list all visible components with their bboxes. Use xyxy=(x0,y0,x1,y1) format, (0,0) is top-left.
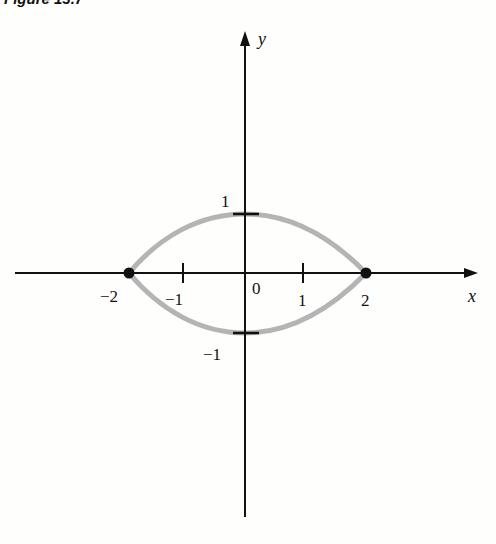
point-2-0 xyxy=(361,268,372,279)
y-tick-label-neg1: −1 xyxy=(203,345,221,364)
x-tick-label-2: 2 xyxy=(361,291,370,310)
y-axis-label: y xyxy=(256,29,266,49)
x-tick-label-neg1: −1 xyxy=(165,290,183,309)
x-axis-arrow-icon xyxy=(464,268,478,278)
y-axis-arrow-icon xyxy=(240,31,250,46)
x-tick-label-0: 0 xyxy=(252,279,261,298)
y-tick-label-1: 1 xyxy=(221,192,230,211)
point-neg2-0 xyxy=(124,268,135,279)
coordinate-plot: −2 −1 0 1 2 1 −1 x y xyxy=(0,0,496,544)
x-tick-label-neg2: −2 xyxy=(100,287,118,306)
curve-upper xyxy=(129,214,366,273)
x-tick-label-1: 1 xyxy=(298,291,307,310)
x-axis-label: x xyxy=(467,286,476,306)
